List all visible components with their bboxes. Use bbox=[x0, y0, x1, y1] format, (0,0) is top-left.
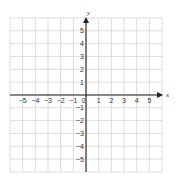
y-tick-label: −2 bbox=[76, 117, 84, 124]
x-tick-label: 5 bbox=[147, 97, 151, 104]
axes bbox=[10, 17, 163, 172]
x-tick-label: −4 bbox=[31, 97, 39, 104]
x-tick-label: 1 bbox=[97, 97, 101, 104]
x-tick-label: −3 bbox=[44, 97, 52, 104]
y-tick-label: 2 bbox=[80, 66, 84, 73]
y-tick-label: 5 bbox=[80, 27, 84, 34]
y-tick-label: −3 bbox=[76, 130, 84, 137]
y-tick-label: −5 bbox=[76, 156, 84, 163]
coordinate-plane: −5−4−3−2−1012345 54321−1−2−3−4−5 x y bbox=[0, 0, 176, 185]
x-tick-label: 2 bbox=[109, 97, 113, 104]
x-axis-label: x bbox=[165, 91, 170, 99]
x-tick-label: −5 bbox=[19, 97, 27, 104]
y-tick-label: 1 bbox=[80, 79, 84, 86]
y-tick-label: 3 bbox=[80, 53, 84, 60]
y-axis-label: y bbox=[86, 9, 91, 17]
x-axis-tick-labels: −5−4−3−2−1012345 bbox=[19, 97, 152, 104]
y-tick-label: −1 bbox=[76, 104, 84, 111]
y-tick-label: −4 bbox=[76, 143, 84, 150]
x-tick-label: 3 bbox=[122, 97, 126, 104]
x-tick-label: −2 bbox=[57, 97, 65, 104]
x-tick-label: 4 bbox=[135, 97, 139, 104]
y-tick-label: 4 bbox=[80, 40, 84, 47]
